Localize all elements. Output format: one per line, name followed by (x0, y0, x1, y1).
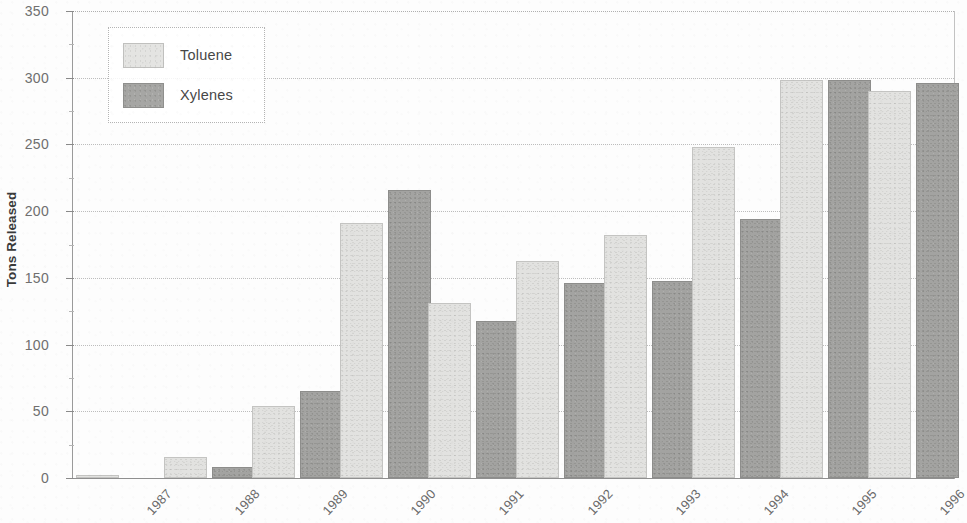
y-axis-tick (66, 144, 74, 145)
y-axis-tick (66, 478, 74, 479)
legend-label-toluene: Toluene (180, 47, 232, 63)
y-axis-tick-label: 100 (0, 337, 49, 353)
bar-group (780, 11, 871, 478)
y-axis-tick-label: 200 (0, 203, 49, 219)
bar-xylenes-1989[interactable] (300, 391, 343, 478)
y-axis-minor-tick (69, 44, 74, 45)
x-axis-tick-label-1995: 1995 (848, 486, 879, 518)
bar-toluene-1994[interactable] (692, 147, 735, 478)
bar-group (252, 11, 343, 478)
bar-toluene-1992[interactable] (516, 261, 559, 478)
x-axis-tick-label-1991: 1991 (496, 486, 527, 518)
x-axis-tick-label-1988: 1988 (232, 486, 263, 518)
bar-chart: Tons Released 050100150200250300350 1987… (0, 0, 967, 523)
x-axis-tick-label-1987: 1987 (144, 486, 175, 518)
y-axis-tick-label: 0 (0, 470, 49, 486)
y-axis-tick (66, 411, 74, 412)
y-axis-minor-tick (69, 311, 74, 312)
y-axis-tick (66, 211, 74, 212)
x-axis-tick-label-1993: 1993 (672, 486, 703, 518)
y-axis-tick (66, 78, 74, 79)
x-axis-tick-label-1992: 1992 (584, 486, 615, 518)
bar-group (868, 11, 959, 478)
bar-xylenes-1991[interactable] (476, 321, 519, 478)
legend: TolueneXylenes (108, 27, 265, 123)
x-axis-tick-label-1996: 1996 (936, 486, 967, 518)
y-axis-minor-tick (69, 445, 74, 446)
y-axis-tick (66, 278, 74, 279)
bar-xylenes-1994[interactable] (740, 219, 783, 478)
legend-item-toluene[interactable]: Toluene (123, 42, 232, 68)
y-axis-tick (66, 345, 74, 346)
y-axis-tick (66, 11, 74, 12)
bar-xylenes-1996[interactable] (916, 83, 959, 478)
bar-group (516, 11, 607, 478)
legend-item-xylenes[interactable]: Xylenes (123, 82, 233, 108)
x-axis-tick-label-1994: 1994 (760, 486, 791, 518)
bar-toluene-1988[interactable] (164, 457, 207, 478)
bar-xylenes-1995[interactable] (828, 80, 871, 478)
y-axis-minor-tick (69, 178, 74, 179)
legend-label-xylenes: Xylenes (180, 87, 233, 103)
bar-xylenes-1993[interactable] (652, 281, 695, 478)
y-axis-tick-label: 150 (0, 270, 49, 286)
y-axis-tick-label: 250 (0, 136, 49, 152)
y-axis-minor-tick (69, 245, 74, 246)
legend-swatch-toluene (123, 43, 164, 68)
y-axis-minor-tick (69, 378, 74, 379)
x-axis-tick-label-1990: 1990 (408, 486, 439, 518)
bar-toluene-1989[interactable] (252, 406, 295, 478)
bar-toluene-1996[interactable] (868, 91, 911, 478)
bar-xylenes-1992[interactable] (564, 283, 607, 478)
bar-toluene-1990[interactable] (340, 223, 383, 478)
bar-group (428, 11, 519, 478)
bar-toluene-1995[interactable] (780, 80, 823, 478)
bar-toluene-1987[interactable] (76, 475, 119, 478)
x-axis-tick-label-1989: 1989 (320, 486, 351, 518)
y-axis-tick-label: 350 (0, 3, 49, 19)
bar-toluene-1993[interactable] (604, 235, 647, 478)
y-axis-minor-tick (69, 111, 74, 112)
bar-group (692, 11, 783, 478)
bar-xylenes-1990[interactable] (388, 190, 431, 478)
bar-toluene-1991[interactable] (428, 303, 471, 478)
bar-group (604, 11, 695, 478)
legend-swatch-xylenes (123, 83, 164, 108)
bar-group (340, 11, 431, 478)
bar-xylenes-1988[interactable] (212, 467, 255, 478)
y-axis-tick-label: 50 (0, 403, 49, 419)
y-axis-tick-label: 300 (0, 70, 49, 86)
